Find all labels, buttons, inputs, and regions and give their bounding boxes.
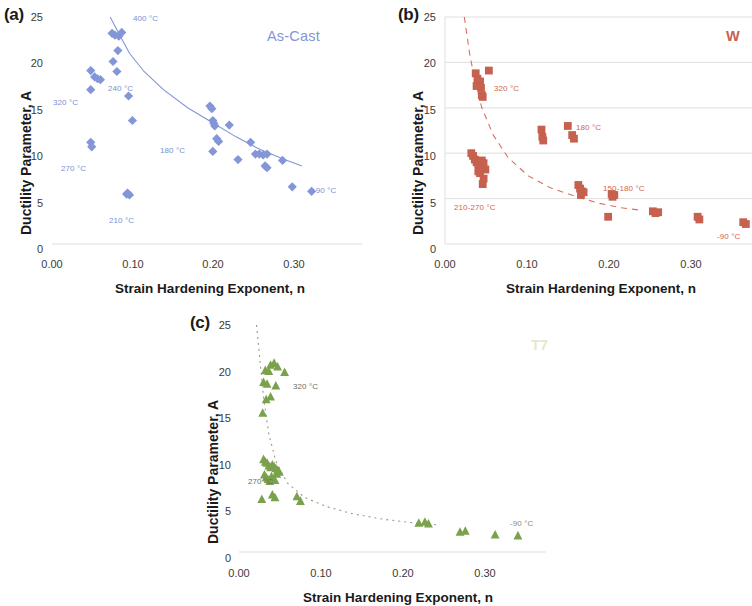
panel-a-xtick-020: 0.20 bbox=[193, 258, 233, 270]
data-point bbox=[570, 135, 578, 143]
data-point bbox=[257, 495, 266, 504]
panel-b-annotation-minus90c: -90 °C bbox=[717, 232, 740, 241]
panel-c-plot-area bbox=[239, 325, 546, 552]
data-point bbox=[113, 46, 122, 55]
panel-b-xtick-030: 0.30 bbox=[671, 258, 711, 270]
data-point bbox=[485, 67, 493, 75]
data-point bbox=[538, 126, 546, 134]
panel-b-annotation-320c: 320 °C bbox=[494, 84, 519, 93]
panel-c-ytick-20: 20 bbox=[211, 366, 231, 378]
data-point bbox=[233, 155, 242, 164]
data-point bbox=[479, 93, 487, 101]
panel-a-xtick-030: 0.30 bbox=[274, 258, 314, 270]
panel-a-x-axis-label: Strain Hardening Exponent, n bbox=[60, 281, 360, 296]
panel-c-xtick-010: 0.10 bbox=[301, 567, 341, 579]
data-point bbox=[288, 182, 297, 191]
data-point bbox=[695, 216, 703, 224]
data-point bbox=[128, 116, 137, 125]
panel-b-ytick-20: 20 bbox=[416, 57, 436, 69]
panel-a-ytick-10: 10 bbox=[23, 150, 43, 162]
panel-a-annotation-180c: 180 °C bbox=[160, 146, 185, 155]
data-point bbox=[280, 367, 289, 376]
panel-c-xtick-020: 0.20 bbox=[383, 567, 423, 579]
panel-c-ytick-25: 25 bbox=[211, 319, 231, 331]
panel-a-xtick-000: 0.00 bbox=[32, 258, 72, 270]
data-point bbox=[477, 84, 485, 92]
data-point bbox=[514, 531, 523, 540]
panel-b-xtick-010: 0.10 bbox=[507, 258, 547, 270]
panel-a-ytick-25: 25 bbox=[23, 11, 43, 23]
panel-a-annotation-320c: 320 °C bbox=[53, 98, 78, 107]
panel-b-annotation-210-270c: 210-270 °C bbox=[454, 203, 496, 212]
panel-c-annotation-270c: 270 °C bbox=[248, 477, 273, 486]
data-point bbox=[742, 220, 750, 228]
data-point bbox=[609, 193, 617, 201]
panel-a-tag: (a) bbox=[4, 5, 24, 25]
panel-b-ytick-15: 15 bbox=[416, 104, 436, 116]
data-point bbox=[208, 147, 217, 156]
data-point bbox=[539, 137, 547, 145]
data-point bbox=[580, 188, 588, 196]
panel-c-tag: (c) bbox=[190, 313, 210, 333]
panel-a-annotation-270c: 270 °C bbox=[61, 164, 86, 173]
panel-a-plot-area bbox=[52, 17, 362, 244]
panel-c-xtick-000: 0.00 bbox=[219, 567, 259, 579]
panel-b-ytick-25: 25 bbox=[416, 11, 436, 23]
panel-c-xtick-030: 0.30 bbox=[465, 567, 505, 579]
panel-b-ytick-5: 5 bbox=[416, 197, 436, 209]
panel-c: (c) T7 Ductility Parameter, A Strain Har… bbox=[186, 306, 586, 606]
data-point bbox=[474, 167, 482, 175]
panel-a-ytick-20: 20 bbox=[23, 57, 43, 69]
panel-b-ytick-10: 10 bbox=[416, 150, 436, 162]
panel-b-ytick-0: 0 bbox=[416, 243, 436, 255]
panel-a-ytick-0: 0 bbox=[23, 243, 43, 255]
data-point bbox=[461, 526, 470, 535]
data-point bbox=[246, 138, 255, 147]
panel-b-xtick-020: 0.20 bbox=[589, 258, 629, 270]
panel-c-ytick-0: 0 bbox=[211, 552, 231, 564]
panel-b-annotation-150-180c: 150-180 °C bbox=[603, 184, 645, 193]
data-point bbox=[604, 213, 612, 221]
data-point bbox=[564, 122, 572, 130]
panel-b-x-axis-label: Strain Hardening Exponent, n bbox=[451, 281, 751, 296]
data-point bbox=[225, 120, 234, 129]
panel-c-x-axis-label: Strain Hardening Exponent, n bbox=[248, 590, 548, 605]
data-point bbox=[86, 85, 95, 94]
panel-c-annotation-320c: 320 °C bbox=[293, 382, 318, 391]
data-point bbox=[112, 67, 121, 76]
panel-b-annotation-180c: 180 °C bbox=[576, 123, 601, 132]
panel-c-ytick-15: 15 bbox=[211, 412, 231, 424]
data-point bbox=[271, 381, 280, 390]
panel-c-annotation-minus90c: -90 °C bbox=[510, 519, 533, 528]
panel-b: (b) W Ductility Parameter, A Strain Hard… bbox=[396, 0, 752, 300]
panel-a-annotation-240c: 240 °C bbox=[108, 84, 133, 93]
panel-a-annotation-minus90c: -90 °C bbox=[313, 186, 336, 195]
panel-a-annotation-400c: 400 °C bbox=[133, 14, 158, 23]
panel-b-xtick-000: 0.00 bbox=[425, 258, 465, 270]
data-point bbox=[479, 180, 487, 188]
panel-a-ytick-5: 5 bbox=[23, 197, 43, 209]
panel-c-ytick-10: 10 bbox=[211, 459, 231, 471]
panel-a-annotation-210c: 210 °C bbox=[109, 216, 134, 225]
data-point bbox=[491, 530, 500, 539]
data-point bbox=[108, 57, 117, 66]
panel-c-ytick-5: 5 bbox=[211, 505, 231, 517]
panel-a-ytick-15: 15 bbox=[23, 104, 43, 116]
data-point bbox=[654, 208, 662, 216]
panel-a: (a) As-Cast Ductility Parameter, A Strai… bbox=[0, 0, 380, 300]
panel-a-xtick-010: 0.10 bbox=[113, 258, 153, 270]
